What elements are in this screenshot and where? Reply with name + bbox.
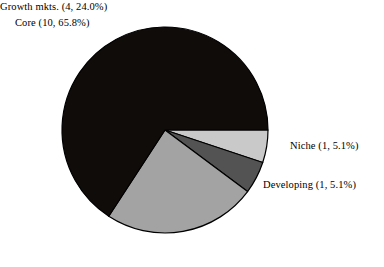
- pie-chart-graphic: [0, 0, 384, 267]
- slice-label-developing: Developing (1, 5.1%): [263, 178, 356, 191]
- slice-label-niche: Niche (1, 5.1%): [290, 139, 359, 152]
- pie-chart: Core (10, 65.8%) Niche (1, 5.1%) Develop…: [0, 0, 384, 267]
- slice-label-core: Core (10, 65.8%): [15, 16, 90, 29]
- slice-label-growth-mkts: Growth mkts. (4, 24.0%): [0, 0, 107, 13]
